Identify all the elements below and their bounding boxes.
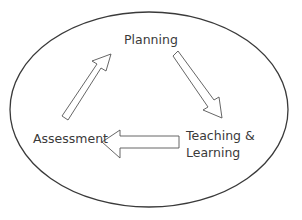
node-teaching-label-line1: Teaching &	[186, 128, 255, 143]
arrow-teaching-to-assessment	[102, 130, 179, 158]
arrow-planning-to-teaching	[173, 51, 222, 118]
node-assessment-label: Assessment	[33, 131, 108, 146]
arrow-assessment-to-planning	[62, 54, 111, 120]
node-planning-label: Planning	[124, 32, 178, 47]
node-teaching-label-line2: Learning	[186, 145, 240, 160]
